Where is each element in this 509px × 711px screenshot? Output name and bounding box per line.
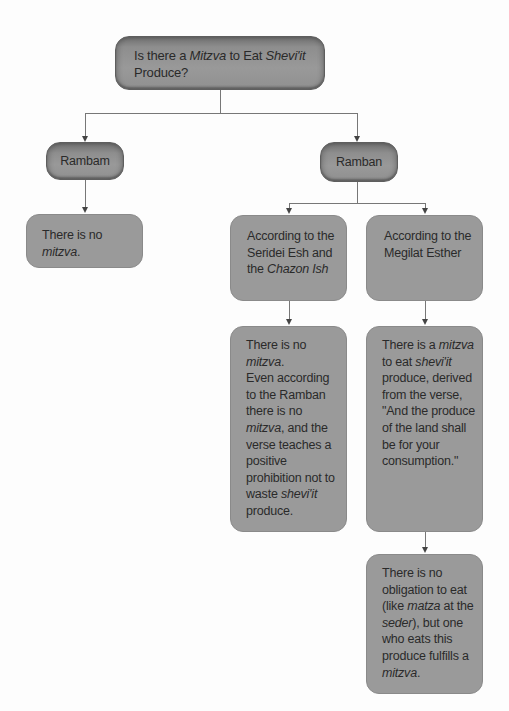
node-text: There is no obligation to eat (like matz…	[382, 565, 478, 681]
connector-to-ramban	[357, 113, 358, 137]
connector-ramban-down	[357, 182, 358, 203]
node-text: Is there a Mitzva to Eat Shevi'it Produc…	[134, 47, 324, 81]
connector-root-horizontal	[85, 113, 358, 114]
connector-ramban-horizontal	[289, 203, 426, 204]
megilat-esther-node: According to the Megilat Esther	[366, 215, 483, 301]
ramban-node: Ramban	[320, 142, 398, 182]
connector-megilat-to-result	[425, 301, 426, 320]
seridei-esh-chazon-ish-node: According to the Seridei Esh and the Cha…	[230, 215, 347, 301]
seridei-result-node: There is no mitzva.Even according to the…	[230, 326, 347, 532]
connector-to-rambam	[85, 113, 86, 137]
connector-seridei-to-result	[289, 301, 290, 320]
node-text: Ramban	[321, 154, 397, 171]
arrow-icon	[286, 208, 292, 214]
final-result-node: There is no obligation to eat (like matz…	[366, 554, 483, 694]
node-text: According to the Megilat Esther	[384, 228, 476, 261]
arrow-icon	[422, 547, 428, 553]
connector-root-down	[220, 90, 221, 113]
arrow-icon	[286, 319, 292, 325]
node-text: There is no mitzva.	[42, 227, 142, 260]
connector-megilat-result-to-final	[425, 532, 426, 548]
arrow-icon	[82, 207, 88, 213]
arrow-icon	[422, 208, 428, 214]
megilat-result-node: There is a mitzva to eat shevi'it produc…	[366, 326, 483, 532]
node-text: According to the Seridei Esh and the Cha…	[247, 228, 340, 278]
arrow-icon	[422, 319, 428, 325]
root-question-node: Is there a Mitzva to Eat Shevi'it Produc…	[115, 36, 325, 90]
node-text: There is no mitzva.Even according to the…	[246, 337, 342, 520]
node-text: There is a mitzva to eat shevi'it produc…	[382, 337, 478, 470]
node-text: Rambam	[47, 153, 123, 170]
rambam-result-node: There is no mitzva.	[26, 214, 143, 268]
rambam-node: Rambam	[46, 142, 124, 180]
connector-rambam-to-result	[85, 180, 86, 208]
